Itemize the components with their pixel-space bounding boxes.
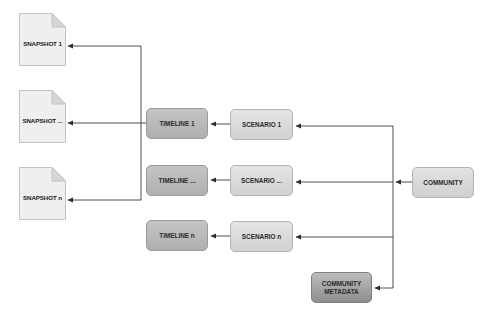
diagram-canvas: SNAPSHOT 1 SNAPSHOT ... SNAPSHOT n TIMEL… <box>0 0 492 320</box>
timeline-node-n[interactable]: TIMELINE n <box>146 220 208 251</box>
snapshot-label: SNAPSHOT 1 <box>19 40 66 47</box>
snapshot-label: SNAPSHOT n <box>19 194 66 201</box>
scenario-node-1[interactable]: SCENARIO 1 <box>230 109 293 140</box>
scenario-node-middle[interactable]: SCENARIO ... <box>230 165 293 196</box>
timeline-node-middle[interactable]: TIMELINE ... <box>146 165 208 196</box>
timeline-node-1[interactable]: TIMELINE 1 <box>146 108 208 139</box>
snapshot-label: SNAPSHOT ... <box>19 117 66 124</box>
scenario-node-n[interactable]: SCENARIO n <box>230 221 293 252</box>
community-metadata-node[interactable]: COMMUNITY METADATA <box>311 272 372 303</box>
snapshot-document-n[interactable]: SNAPSHOT n <box>19 167 66 220</box>
snapshot-document-1[interactable]: SNAPSHOT 1 <box>19 13 66 66</box>
snapshot-document-middle[interactable]: SNAPSHOT ... <box>19 90 66 143</box>
community-node[interactable]: COMMUNITY <box>412 167 474 198</box>
connector-lines <box>0 0 492 320</box>
